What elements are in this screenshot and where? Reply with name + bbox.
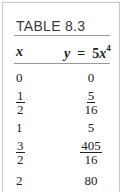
row-3-x: 32: [16, 138, 28, 166]
table-title: TABLE 8.3: [16, 18, 85, 34]
row-1-y: 516: [76, 88, 106, 116]
header-y-exp: 4: [106, 43, 111, 53]
row-4-y: 80: [76, 173, 106, 189]
row-0-x: 0: [16, 70, 28, 86]
header-x: x: [16, 44, 23, 60]
row-4-x: 2: [16, 173, 28, 189]
row-1-x: 12: [16, 88, 28, 116]
row-3-y: 40516: [76, 138, 106, 166]
row-2-x: 1: [16, 120, 28, 136]
header-y-lhs: y: [64, 46, 70, 61]
header-y-eq: =: [77, 46, 85, 61]
title-rule: [14, 35, 110, 36]
row-0-y: 0: [76, 70, 106, 86]
row-2-y: 5: [76, 120, 106, 136]
header-y: y = 5x4: [64, 44, 111, 62]
header-rule: [14, 63, 110, 64]
